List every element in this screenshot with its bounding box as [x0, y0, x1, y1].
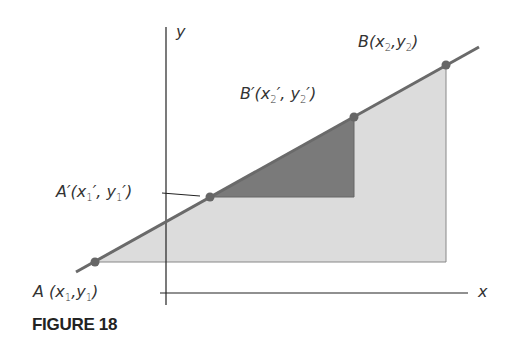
figure-18: y x B(x2,y2) B′(x2′, y2′) A′(x1′, y1′) A…: [0, 0, 514, 353]
label-a-prime: A′(x1′, y1′): [56, 182, 132, 203]
x-axis-label: x: [478, 282, 487, 301]
leader-line: [162, 193, 200, 196]
label-a: A (x1,y1): [33, 282, 98, 303]
point-b-prime: [350, 113, 359, 122]
label-b-prime: B′(x2′, y2′): [240, 84, 316, 105]
point-a: [91, 258, 100, 267]
point-b: [442, 61, 451, 70]
figure-caption: FIGURE 18: [32, 315, 117, 335]
point-a-prime: [206, 193, 215, 202]
y-axis-label: y: [176, 22, 185, 41]
label-b: B(x2,y2): [358, 32, 418, 53]
